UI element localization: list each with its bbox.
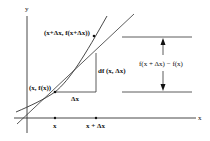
tick-x-label: x xyxy=(53,122,57,130)
point-x-fx-label: (x, f(x)) xyxy=(29,84,52,92)
df-label: df (x, Δx) xyxy=(98,67,126,75)
down-arrow-icon xyxy=(161,84,166,91)
x-axis-label: x xyxy=(198,114,202,122)
up-arrow-icon xyxy=(161,38,166,45)
tick-x-plus-dx-label: x + Δx xyxy=(86,122,105,130)
tick-x-plus-dx xyxy=(95,117,97,119)
tick-x xyxy=(54,117,56,119)
point-x-fx xyxy=(54,91,57,94)
point-xdx-fxdx-label: (x+Δx, f(x+Δx)) xyxy=(44,29,91,37)
y-axis-label: y xyxy=(25,5,29,13)
differential-diagram: y x x x + Δx (x, f(x)) (x+Δx, f(x+Δx)) Δ… xyxy=(0,0,210,141)
dx-label: Δx xyxy=(71,95,79,103)
point-xdx-fxdx xyxy=(93,35,96,38)
difference-label: f(x + Δx) − f(x) xyxy=(139,60,184,68)
